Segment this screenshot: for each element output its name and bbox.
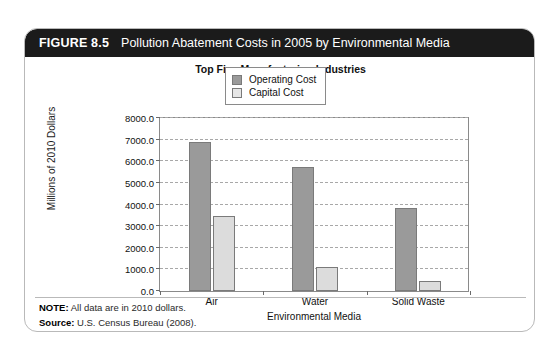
source-row: Source: U.S. Census Bureau (2008).: [39, 317, 519, 328]
figure-header: FIGURE 8.5 Pollution Abatement Costs in …: [25, 29, 535, 57]
x-tick-mark: [470, 291, 471, 295]
figure-card: FIGURE 8.5 Pollution Abatement Costs in …: [24, 28, 535, 332]
legend-swatch-operating-cost-icon: [232, 75, 242, 85]
legend-item-operating-cost: Operating Cost: [232, 74, 316, 85]
plot-area: 0.01000.02000.03000.04000.05000.06000.07…: [159, 117, 469, 292]
x-tick-mark: [160, 291, 161, 295]
figure-notes: NOTE: All data are in 2010 dollars. Sour…: [39, 302, 519, 332]
legend-item-capital-cost: Capital Cost: [232, 87, 316, 98]
y-tick-label: 4000.0: [125, 199, 154, 210]
note-row: NOTE: All data are in 2010 dollars.: [39, 302, 519, 313]
chart-legend: Operating Cost Capital Cost: [225, 67, 326, 105]
x-tick-mark: [263, 291, 264, 295]
figure-number: FIGURE 8.5: [39, 36, 109, 50]
legend-label-operating-cost: Operating Cost: [249, 74, 316, 85]
chart-body: Top Five Manufacturing Industries Millio…: [25, 57, 535, 295]
bar-air-operating-cost: [189, 142, 211, 291]
y-axis-title: Millions of 2010 Dollars: [46, 79, 57, 239]
y-tick-label: 0.0: [141, 286, 154, 297]
legend-swatch-capital-cost-icon: [232, 88, 242, 98]
y-tick-label: 2000.0: [125, 242, 154, 253]
bar-water-capital-cost: [316, 267, 338, 291]
y-tick-label: 6000.0: [125, 156, 154, 167]
y-tick-label: 8000.0: [125, 113, 154, 124]
bar-air-capital-cost: [213, 216, 235, 291]
bar-solid-waste-operating-cost: [395, 208, 417, 291]
y-tick-label: 3000.0: [125, 221, 154, 232]
bar-solid-waste-capital-cost: [419, 281, 441, 291]
y-tick-label: 7000.0: [125, 134, 154, 145]
y-tick-label: 5000.0: [125, 177, 154, 188]
note-text: All data are in 2010 dollars.: [71, 302, 186, 313]
x-tick-mark: [367, 291, 368, 295]
note-label: NOTE:: [39, 302, 69, 313]
source-label: Source:: [39, 317, 74, 328]
legend-label-capital-cost: Capital Cost: [249, 87, 303, 98]
bar-water-operating-cost: [292, 167, 314, 291]
y-tick-label: 1000.0: [125, 264, 154, 275]
figure-divider: [35, 297, 526, 298]
figure-title: Pollution Abatement Costs in 2005 by Env…: [121, 36, 450, 50]
bars-layer: [160, 118, 468, 291]
source-text: U.S. Census Bureau (2008).: [77, 317, 196, 328]
